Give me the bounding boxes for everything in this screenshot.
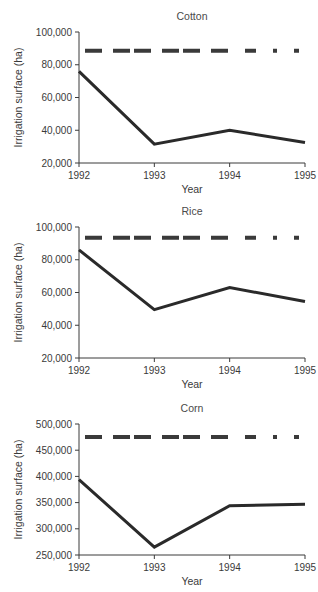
- x-tick-label-rice-0: 1992: [68, 365, 91, 376]
- y-tick-label-corn-0: 250,000: [36, 550, 73, 561]
- x-tick-label-corn-0: 1992: [68, 562, 91, 573]
- x-tick-label-corn-3: 1995: [294, 562, 317, 573]
- x-tick-label-cotton-2: 1994: [219, 170, 242, 181]
- y-tick-label-corn-2: 350,000: [36, 497, 73, 508]
- axis-spines-corn: [79, 424, 305, 555]
- chart-svg-rice: RiceIrrigation surface (ha)Year20,00040,…: [0, 195, 318, 392]
- y-tick-label-cotton-4: 100,000: [36, 27, 73, 38]
- axis-spines-rice: [79, 227, 305, 358]
- x-tick-label-corn-2: 1994: [219, 562, 242, 573]
- y-tick-label-cotton-2: 60,000: [41, 92, 72, 103]
- y-tick-label-cotton-1: 40,000: [41, 125, 72, 136]
- y-tick-label-corn-4: 450,000: [36, 445, 73, 456]
- x-tick-label-cotton-1: 1993: [143, 170, 166, 181]
- x-tick-label-rice-2: 1994: [219, 365, 242, 376]
- y-tick-label-rice-3: 80,000: [41, 254, 72, 265]
- chart-title-corn: Corn: [181, 402, 204, 414]
- y-tick-label-corn-1: 300,000: [36, 523, 73, 534]
- y-tick-label-cotton-3: 80,000: [41, 59, 72, 70]
- x-axis-label-rice: Year: [181, 378, 203, 390]
- data-series-rice: [79, 250, 305, 310]
- data-series-cotton: [79, 71, 305, 144]
- y-tick-label-rice-2: 60,000: [41, 287, 72, 298]
- chart-panel-cotton: CottonIrrigation surface (ha)Year20,0004…: [0, 0, 318, 197]
- data-series-corn: [79, 480, 305, 548]
- y-tick-label-corn-3: 400,000: [36, 471, 73, 482]
- x-axis-label-corn: Year: [181, 575, 203, 587]
- x-tick-label-cotton-0: 1992: [68, 170, 91, 181]
- chart-svg-cotton: CottonIrrigation surface (ha)Year20,0004…: [0, 0, 318, 197]
- y-tick-label-corn-5: 500,000: [36, 419, 73, 430]
- x-tick-label-rice-1: 1993: [143, 365, 166, 376]
- figure-multi-panel-line-charts: CottonIrrigation surface (ha)Year20,0004…: [0, 0, 318, 592]
- y-tick-label-rice-4: 100,000: [36, 222, 73, 233]
- chart-svg-corn: CornIrrigation surface (ha)Year250,00030…: [0, 392, 318, 589]
- y-axis-label-cotton: Irrigation surface (ha): [12, 48, 24, 148]
- chart-panel-corn: CornIrrigation surface (ha)Year250,00030…: [0, 392, 318, 589]
- y-tick-label-rice-0: 20,000: [41, 353, 72, 364]
- y-tick-label-cotton-0: 20,000: [41, 158, 72, 169]
- x-tick-label-cotton-3: 1995: [294, 170, 317, 181]
- x-tick-label-corn-1: 1993: [143, 562, 166, 573]
- y-axis-label-rice: Irrigation surface (ha): [12, 243, 24, 343]
- chart-panel-rice: RiceIrrigation surface (ha)Year20,00040,…: [0, 195, 318, 392]
- y-tick-label-rice-1: 40,000: [41, 320, 72, 331]
- y-axis-label-corn: Irrigation surface (ha): [12, 440, 24, 540]
- chart-title-rice: Rice: [181, 205, 202, 217]
- chart-title-cotton: Cotton: [177, 10, 208, 22]
- x-tick-label-rice-3: 1995: [294, 365, 317, 376]
- x-axis-label-cotton: Year: [181, 183, 203, 195]
